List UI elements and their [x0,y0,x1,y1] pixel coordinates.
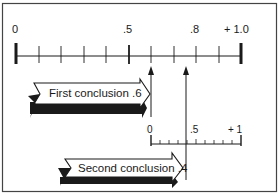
main-scale-label-0.8: .8 [190,24,199,35]
main-scale-label-0: 0 [12,24,18,35]
sub-scale-label-1: + 1 [228,125,242,135]
main-scale-label-1.0: + 1.0 [224,24,249,35]
main-scale [16,43,241,64]
second-conclusion-label: Second conclusion .4 [78,163,187,175]
first-conclusion-label: First conclusion .6 [49,88,142,100]
sub-scale-label-0.5: .5 [190,125,198,135]
sub-scale [151,135,241,146]
diagram-canvas: 0 .5 .8 + 1.0 0 .5 + 1 First conclusion … [0,0,279,195]
sub-scale-label-0: 0 [147,125,153,135]
main-scale-label-0.5: .5 [123,24,132,35]
